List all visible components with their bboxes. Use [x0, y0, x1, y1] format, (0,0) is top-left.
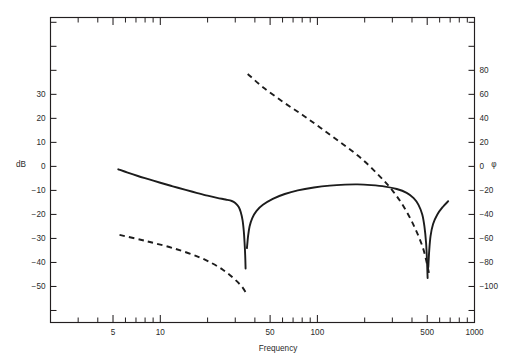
y-tick-label-left: 10 [36, 138, 46, 147]
y-tick-label-right: 20 [480, 138, 490, 147]
x-axis-title: Frequency [259, 344, 299, 353]
y-tick-label-left: −40 [32, 258, 46, 267]
y-tick-label-left: −20 [32, 210, 46, 219]
x-tick-label: 1000 [465, 328, 484, 337]
x-tick-label: 10 [156, 328, 166, 337]
bode-frequency-response-chart: 510501005001000 3020100−10−20−30−40−50 8… [0, 0, 509, 361]
y-tick-label-left: 0 [41, 162, 46, 171]
y-tick-label-left: 30 [36, 90, 46, 99]
y-tick-label-right: 80 [480, 66, 490, 75]
y-tick-label-right: −100 [480, 282, 499, 291]
chart-background [0, 0, 509, 361]
chart-canvas: 510501005001000 3020100−10−20−30−40−50 8… [0, 0, 509, 361]
y-tick-label-left: −50 [32, 282, 46, 291]
y-tick-label-left: −30 [32, 234, 46, 243]
x-tick-label: 5 [111, 328, 116, 337]
y-tick-label-right: −80 [480, 258, 494, 267]
y-tick-label-left: −10 [32, 186, 46, 195]
y-tick-label-right: 60 [480, 90, 490, 99]
y-axis-title-right: φ [491, 160, 496, 169]
y-axis-title-left: dB [16, 160, 27, 169]
x-tick-label: 50 [266, 328, 276, 337]
x-tick-label: 500 [420, 328, 434, 337]
y-tick-label-right: 40 [480, 114, 490, 123]
y-tick-label-right: −20 [480, 186, 494, 195]
y-tick-label-right: 0 [480, 162, 485, 171]
y-tick-label-right: −40 [480, 210, 494, 219]
y-tick-label-right: −60 [480, 234, 494, 243]
x-tick-label: 100 [311, 328, 325, 337]
y-tick-label-left: 20 [36, 114, 46, 123]
